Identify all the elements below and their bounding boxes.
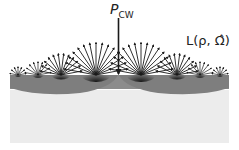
medium (10, 90, 229, 143)
radiance-label: L(ρ, Ω̂) (186, 33, 230, 48)
incident-power-label: PCW (110, 1, 134, 20)
diffuse-reflectance-diagram (0, 0, 239, 150)
